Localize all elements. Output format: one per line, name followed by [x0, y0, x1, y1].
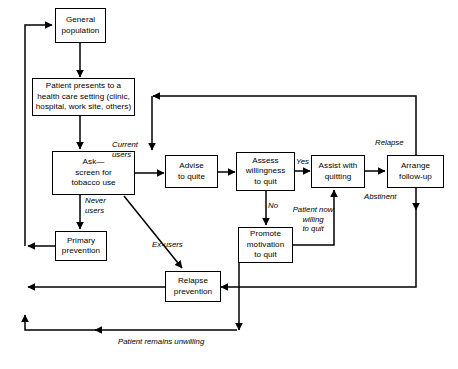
node-patient-presents: Patient presents to a health care settin… [32, 78, 135, 116]
edge-ask-to-relapse-prevention [124, 196, 182, 268]
node-arrange-followup: Arrange follow-up [387, 155, 444, 188]
edge-label-never-users: Never users [85, 196, 119, 215]
node-primary-prevention: Primary prevention [55, 231, 107, 261]
edge-unwilling-to-left-rail [25, 315, 96, 330]
edge-label-ex-users: Ex-users [152, 240, 196, 250]
flowchart-diagram: General population Patient presents to a… [0, 0, 458, 369]
edge-label-patient-remains-unwilling: Patient remains unwilling [118, 337, 268, 347]
edge-label-relapse: Relapse [375, 138, 415, 148]
node-relapse-prevention: Relapse prevention [165, 271, 221, 302]
node-assist-quitting: Assist with quitting [311, 155, 365, 188]
edge-left-rail-to-general [25, 25, 52, 246]
node-advise-to-quit: Advise to quite [165, 155, 218, 188]
node-general-population: General population [55, 8, 106, 43]
node-assess-willingness: Assess willingness to quit [236, 152, 295, 191]
edge-label-no: No [268, 201, 284, 211]
edge-label-yes: Yes [296, 157, 316, 167]
edge-label-abstinent: Abstinent [364, 192, 410, 202]
edge-label-current-users: Current users [112, 140, 156, 159]
node-promote-motivation: Promote motivation to quit [238, 227, 293, 263]
edge-label-patient-now-willing: Patient now willing to quit [288, 205, 338, 234]
